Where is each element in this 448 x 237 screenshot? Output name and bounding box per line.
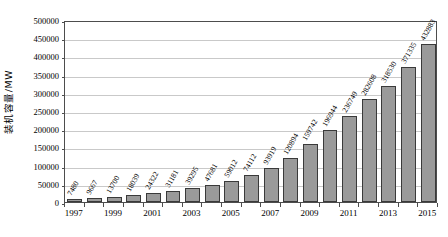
bar-slot[interactable]: 318530 [379, 22, 399, 202]
bar-slot[interactable]: 236749 [340, 22, 360, 202]
bar-slot[interactable]: 24322 [144, 22, 164, 202]
x-axis-tick-labels: 1997199920012003200520072009201120132015 [64, 208, 437, 224]
x-axis-tickmark [398, 203, 399, 207]
bar-value-label: 282608 [359, 73, 378, 97]
bar[interactable] [87, 198, 102, 202]
x-axis-tickmark [221, 203, 222, 207]
x-axis-tickmark [339, 203, 340, 207]
bar-value-label: 7480 [65, 180, 80, 198]
bar[interactable] [166, 191, 181, 202]
x-axis-tick-label: 1999 [104, 208, 122, 218]
x-axis-tickmark [241, 203, 242, 207]
bar[interactable] [185, 188, 200, 202]
bar-value-label: 318530 [379, 60, 398, 84]
bar[interactable] [401, 67, 416, 202]
bar-value-label: 39295 [183, 165, 200, 186]
y-axis-tick-label: 150000 [34, 143, 60, 153]
y-axis-tick-label: 50000 [38, 180, 59, 190]
x-axis-tick-label: 2007 [261, 208, 279, 218]
bar[interactable] [283, 158, 298, 202]
y-axis-tick-label: 350000 [34, 71, 60, 81]
bar-slot[interactable]: 7480 [65, 22, 85, 202]
x-axis-tickmark [84, 203, 85, 207]
x-axis-tickmark [319, 203, 320, 207]
x-axis-tickmark [162, 203, 163, 207]
bar-value-label: 120894 [281, 132, 300, 156]
bar-slot[interactable]: 196944 [320, 22, 340, 202]
y-axis-tick-label: 450000 [34, 34, 60, 44]
bar-slot[interactable]: 120894 [281, 22, 301, 202]
x-axis-tick-label: 2013 [379, 208, 397, 218]
x-axis-tick-label: 2011 [340, 208, 358, 218]
bar-value-label: 31181 [163, 168, 180, 189]
bar-slot[interactable]: 47681 [202, 22, 222, 202]
x-axis-tick-label: 2005 [222, 208, 240, 218]
bar-value-label: 24322 [144, 170, 161, 191]
x-axis-tickmark [64, 203, 65, 207]
bar[interactable] [126, 195, 141, 202]
bar[interactable] [244, 175, 259, 202]
x-axis-tickmark [182, 203, 183, 207]
x-axis-tickmark [358, 203, 359, 207]
bar-slot[interactable]: 31181 [163, 22, 183, 202]
bar-slot[interactable]: 282608 [359, 22, 379, 202]
bar-slot[interactable]: 371335 [399, 22, 419, 202]
x-axis-tick-label: 2001 [143, 208, 161, 218]
bar[interactable] [362, 99, 377, 202]
bar[interactable] [67, 199, 82, 202]
bar[interactable] [146, 193, 161, 202]
y-axis-tick-label: 100000 [34, 162, 60, 172]
x-axis-tick-label: 2015 [418, 208, 436, 218]
x-axis-tickmark [378, 203, 379, 207]
x-axis-tick-label: 2003 [183, 208, 201, 218]
bar[interactable] [323, 130, 338, 202]
x-axis-tickmark [260, 203, 261, 207]
y-axis-title-label: 装机容量/MW [1, 70, 15, 134]
x-axis-tickmark [300, 203, 301, 207]
bar-value-label: 93919 [261, 145, 278, 166]
bar-slot[interactable]: 39295 [183, 22, 203, 202]
bar-value-label: 59012 [222, 158, 239, 179]
y-axis-tick-label: 500000 [34, 16, 60, 26]
y-axis-tick-label: 300000 [34, 89, 60, 99]
bar-value-label: 236749 [340, 90, 359, 114]
bar-value-label: 13700 [104, 174, 121, 195]
y-axis-tick-label: 400000 [34, 52, 60, 62]
x-axis-tick-label: 1997 [65, 208, 83, 218]
bar-value-label: 9667 [85, 179, 100, 197]
x-axis-tickmark [280, 203, 281, 207]
bar[interactable] [224, 181, 239, 202]
bar-slot[interactable]: 9667 [85, 22, 105, 202]
bar[interactable] [303, 144, 318, 202]
y-axis-tick-label: 200000 [34, 125, 60, 135]
x-axis-tickmark [123, 203, 124, 207]
bar[interactable] [264, 168, 279, 202]
bars-layer: 7480966713700180392432231181392954768159… [65, 22, 436, 202]
x-axis-tickmark [201, 203, 202, 207]
bar-value-label: 371335 [399, 41, 418, 65]
y-axis-tick-label: 0 [55, 198, 59, 208]
bar-slot[interactable]: 159742 [301, 22, 321, 202]
bar[interactable] [421, 44, 436, 202]
bar-slot[interactable]: 432883 [418, 22, 438, 202]
bar-value-label: 47681 [202, 162, 219, 183]
bar-slot[interactable]: 59012 [222, 22, 242, 202]
bar-slot[interactable]: 18039 [124, 22, 144, 202]
y-axis-tick-label: 250000 [34, 107, 60, 117]
bar[interactable] [381, 86, 396, 202]
x-axis-tick-label: 2009 [300, 208, 318, 218]
bar[interactable] [342, 116, 357, 202]
x-axis-tickmark [143, 203, 144, 207]
bar-slot[interactable]: 93919 [261, 22, 281, 202]
bar-value-label: 18039 [124, 172, 141, 193]
bar-value-label: 196944 [320, 104, 339, 128]
bar-value-label: 432883 [418, 18, 437, 42]
x-axis-tickmark [417, 203, 418, 207]
bar[interactable] [107, 197, 122, 202]
bar-value-label: 159742 [301, 118, 320, 142]
y-axis-tick-labels: 0500001000001500002000002500003000003500… [14, 21, 62, 203]
bar[interactable] [205, 185, 220, 202]
bar-slot[interactable]: 13700 [104, 22, 124, 202]
bar-value-label: 74112 [242, 152, 259, 173]
bar-slot[interactable]: 74112 [242, 22, 262, 202]
